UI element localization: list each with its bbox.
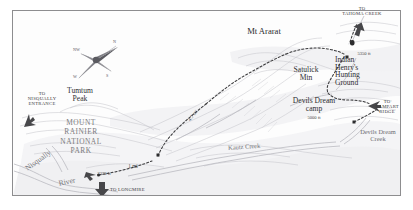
junction-marker	[157, 154, 160, 157]
pass-marker	[350, 40, 355, 46]
summit-marker	[346, 56, 349, 59]
compass-hub	[93, 57, 99, 63]
mount-rainier-trail-map: N NW W S Mt Ararat Satulick Mtn Tumtum P…	[0, 0, 413, 210]
terrain-shading	[13, 44, 400, 196]
arrow-to-rampart-ridge	[368, 101, 381, 112]
creek-marker	[353, 121, 356, 124]
map-graphics-layer	[0, 0, 413, 210]
trailhead-marker	[97, 174, 100, 177]
arrow-to-tahoma-creek	[351, 20, 367, 37]
compass-rose	[78, 46, 118, 79]
